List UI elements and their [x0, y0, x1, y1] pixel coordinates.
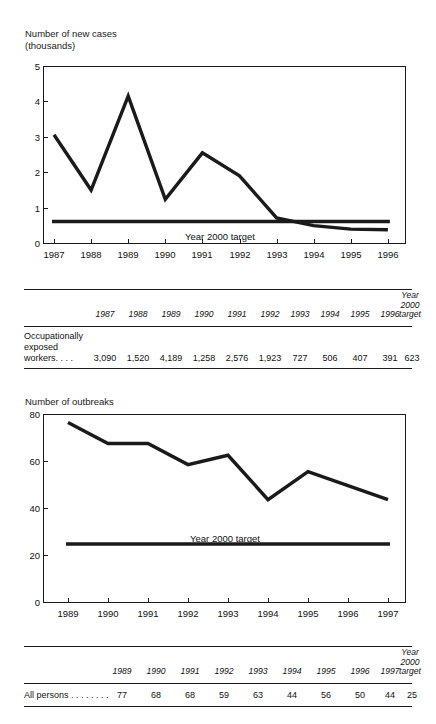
chart-two-data-line [68, 423, 388, 500]
chart-two-series-layer [0, 0, 436, 724]
chart-two-target-label: Year 2000 target [145, 533, 305, 544]
table-two-header-target: Year 2000 target [390, 648, 430, 677]
figure-page: { "chart_data": [ { "id": "new-cases", "… [0, 0, 436, 724]
table-two-mid-rule [24, 683, 412, 684]
table-two-cell-target: 25 [392, 690, 432, 700]
table-two-row-label: All persons . . . . . . . . [24, 690, 109, 701]
table-two-top-rule [24, 646, 412, 647]
table-two-bottom-rule [24, 706, 412, 707]
